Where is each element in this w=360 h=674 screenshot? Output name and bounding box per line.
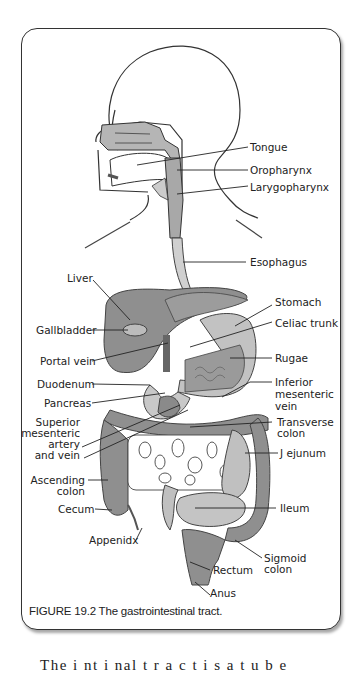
label-portal-vein: Portal vein [40,355,96,367]
label-anus: Anus [210,587,236,599]
label-rectum: Rectum [213,564,253,576]
ileum-shape [176,493,245,527]
label-rugae: Rugae [275,352,308,364]
label-sigmoid-colon-2: colon [264,563,292,575]
label-ascending-colon-2: colon [57,485,85,497]
label-inferior-mesenteric-vein-2: mesenteric [275,388,334,400]
portal-vein-shape [163,335,170,372]
small-intestine-loop [162,485,178,530]
label-tongue: Tongue [249,141,288,153]
label-gallbladder: Gallbladder [36,324,97,336]
label-celiac-trunk: Celiac trunk [275,317,339,329]
rugae-shape [185,345,244,392]
label-transverse-colon-2: colon [277,427,305,439]
rectum-shape [182,529,225,585]
body-text-cutoff: The i nt i nal t r a c t i s a t u b e [40,657,288,674]
ascending-colon-shape [100,420,128,515]
label-esophagus: Esophagus [250,256,307,268]
label-appendix: Appenidx [89,534,138,546]
label-inferior-mesenteric-vein-1: Inferior [275,376,314,388]
label-liver: Liver [67,272,93,284]
label-cecum: Cecum [58,503,94,515]
label-duodenum: Duodenum [37,378,95,390]
label-oropharynx: Oropharynx [250,164,312,176]
label-pancreas: Pancreas [44,397,91,409]
esophagus-shape [172,238,192,295]
label-ileum: Ileum [280,502,309,514]
appendix-shape [128,505,138,530]
label-stomach: Stomach [275,296,321,308]
label-inferior-mesenteric-vein-3: vein [275,400,297,412]
label-superior-mesenteric-4: and vein [35,449,80,461]
label-jejunum: J ejunum [279,447,326,459]
figure-caption: FIGURE 19.2 The gastrointestinal tract. [29,605,222,617]
label-larygopharynx: Larygopharynx [250,181,329,193]
